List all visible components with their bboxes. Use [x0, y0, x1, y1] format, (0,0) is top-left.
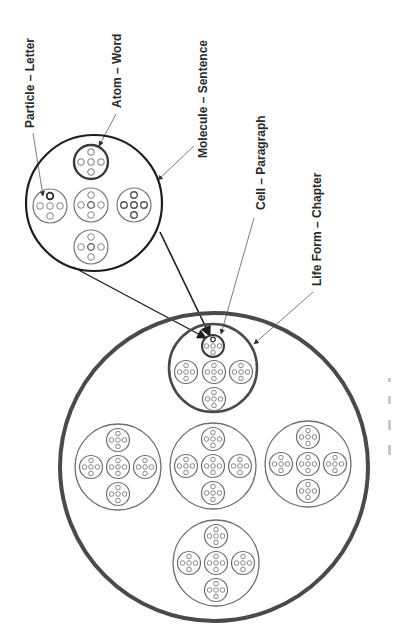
- leader-atom: [99, 114, 116, 146]
- label-life-form-chapter: Life Form – Chapter: [310, 172, 324, 286]
- life-form-right: [265, 421, 351, 507]
- atom-bottom: [74, 230, 108, 264]
- leader-molecule: [158, 146, 194, 180]
- atom-left: [33, 189, 67, 223]
- organism-circle: [60, 313, 368, 621]
- atom-center: [74, 188, 108, 222]
- edge-artifact: [388, 420, 391, 430]
- life-form-left: [75, 424, 161, 510]
- edge-artifact: [388, 378, 391, 382]
- label-molecule-sentence: Molecule – Sentence: [196, 40, 210, 158]
- atom-highlighted: [74, 145, 108, 179]
- label-atom-word: Atom – Word: [110, 34, 124, 108]
- particle-highlighted: [47, 193, 54, 200]
- hierarchy-diagram: Particle – Letter Atom – Word Molecule –…: [0, 0, 393, 632]
- label-particle-letter: Particle – Letter: [23, 38, 37, 128]
- life-form-center: [170, 423, 256, 509]
- edge-artifact: [388, 445, 391, 455]
- edge-artifact: [388, 396, 391, 404]
- label-cell-paragraph: Cell – Paragraph: [254, 115, 268, 210]
- zoom-line-lower: [73, 267, 206, 338]
- cell-highlighted: [202, 335, 224, 357]
- atom-right: [117, 188, 151, 222]
- life-form-highlighted: [169, 324, 257, 412]
- life-form-bottom: [173, 520, 259, 606]
- molecule-magnified: [26, 135, 162, 271]
- leader-life-form: [254, 292, 313, 344]
